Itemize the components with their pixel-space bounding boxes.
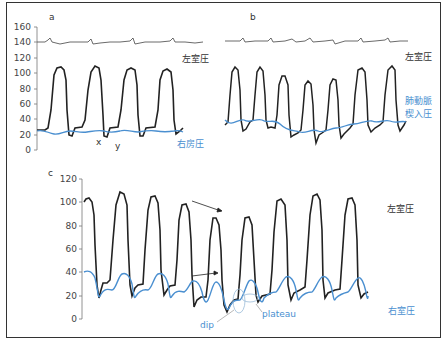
panel-a-lv xyxy=(37,66,183,137)
panel-c-lv-label: 左室圧 xyxy=(387,205,414,214)
panel-c-label: c xyxy=(48,169,53,178)
axis-c-tick: 20 xyxy=(55,292,77,301)
axis-c-tick: 80 xyxy=(55,222,77,231)
panel-b-ecg xyxy=(225,38,408,44)
panel-c-rv-label: 右室圧 xyxy=(388,307,415,316)
axis-a-tick: 60 xyxy=(9,100,31,109)
panel-b-label: b xyxy=(250,13,256,22)
panel-a-lv-label: 左室圧 xyxy=(182,55,209,64)
annotation-arrows xyxy=(192,201,222,276)
dip-leader xyxy=(217,310,234,322)
axis-a-tick: 100 xyxy=(9,69,31,78)
panel-b-pcwp-label-1: 肺動脈 xyxy=(405,97,432,106)
axis-c-tick: 0 xyxy=(55,315,77,324)
panel-a-axis xyxy=(34,27,37,150)
panel-b-pcwp-label-2: 楔入圧 xyxy=(405,110,432,119)
plateau-circle xyxy=(242,294,258,302)
plateau-annotation: plateau xyxy=(262,310,296,319)
panel-a-ecg xyxy=(37,38,203,44)
dip-annotation: dip xyxy=(200,321,214,330)
panel-a-x-marker: x xyxy=(96,138,101,147)
axis-a-tick: 120 xyxy=(9,54,31,63)
panel-a-y-marker: y xyxy=(115,142,120,151)
panel-b-lv-label: 左室圧 xyxy=(405,53,432,62)
axis-c-tick: 40 xyxy=(55,268,77,277)
axis-c-tick: 120 xyxy=(55,175,77,184)
axis-a-tick: 80 xyxy=(9,85,31,94)
axis-c-tick: 100 xyxy=(55,198,77,207)
axis-a-tick: 40 xyxy=(9,115,31,124)
axis-a-tick: 20 xyxy=(9,131,31,140)
axis-c-tick: 60 xyxy=(55,245,77,254)
panel-c-lv xyxy=(84,192,368,312)
panel-c-rv xyxy=(84,271,368,309)
panel-a-ra-label: 右房圧 xyxy=(177,140,204,149)
panel-a-ra xyxy=(37,130,183,134)
axis-a-tick: 160 xyxy=(9,23,31,32)
axis-a-tick: 0 xyxy=(9,146,31,155)
panel-a-label: a xyxy=(49,13,55,22)
axis-a-tick: 140 xyxy=(9,38,31,47)
panel-b-lv xyxy=(225,66,406,143)
panel-c-axis xyxy=(79,179,82,319)
